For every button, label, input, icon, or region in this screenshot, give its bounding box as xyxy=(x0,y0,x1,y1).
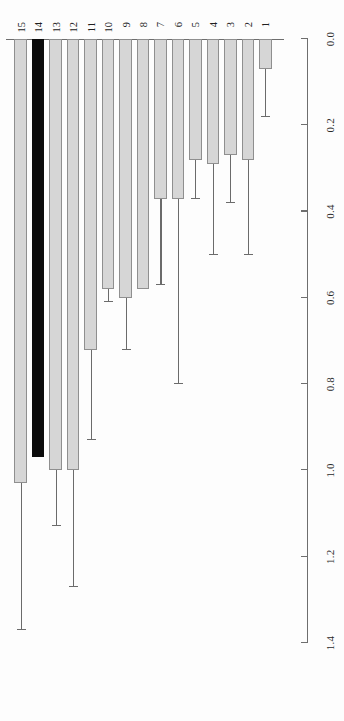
error-bar-5 xyxy=(195,160,196,199)
value-tick-label: 0.4 xyxy=(324,204,336,218)
bar-4 xyxy=(207,39,220,164)
bar-row xyxy=(14,39,27,643)
error-bar-3 xyxy=(230,155,231,202)
bar-row xyxy=(119,39,132,643)
category-label-6: 6 xyxy=(172,22,183,27)
bar-9 xyxy=(119,39,132,298)
bar-8 xyxy=(137,39,150,289)
error-bar-7 xyxy=(160,199,161,285)
error-bar-12 xyxy=(73,470,74,586)
category-label-2: 2 xyxy=(242,22,253,27)
bar-row xyxy=(189,39,202,643)
value-axis-line xyxy=(307,39,308,643)
rotated-figure-wrapper: 0.00.20.40.60.81.01.21.4 Relative uptake… xyxy=(0,0,344,721)
value-tick xyxy=(301,297,308,298)
category-label-14: 14 xyxy=(33,22,44,33)
bar-row xyxy=(49,39,62,643)
bar-10 xyxy=(102,39,115,289)
value-tick xyxy=(301,383,308,384)
bar-row xyxy=(32,39,45,643)
error-bar-15 xyxy=(21,483,22,630)
bar-2 xyxy=(242,39,255,160)
value-tick-label: 0.8 xyxy=(324,377,336,391)
figure-3: 0.00.20.40.60.81.01.21.4 Relative uptake… xyxy=(0,0,344,721)
error-bar-9 xyxy=(126,298,127,350)
bar-15 xyxy=(14,39,27,483)
bar-row xyxy=(67,39,80,643)
value-tick-label: 1.0 xyxy=(324,463,336,477)
value-tick xyxy=(301,124,308,125)
plot-area: 0.00.20.40.60.81.01.21.4 Relative uptake… xyxy=(12,39,274,643)
category-label-10: 10 xyxy=(103,22,114,33)
bar-5 xyxy=(189,39,202,160)
bar-7 xyxy=(154,39,167,199)
value-tick-label: 0.0 xyxy=(324,32,336,46)
error-bar-11 xyxy=(91,350,92,441)
bar-row xyxy=(242,39,255,643)
category-label-13: 13 xyxy=(50,22,61,33)
category-label-1: 1 xyxy=(260,22,271,27)
bar-13 xyxy=(49,39,62,470)
category-label-8: 8 xyxy=(138,22,149,27)
error-bar-1 xyxy=(265,69,266,116)
error-bar-2 xyxy=(248,160,249,255)
value-tick xyxy=(301,210,308,211)
value-tick xyxy=(301,556,308,557)
bar-row xyxy=(102,39,115,643)
bar-14 xyxy=(32,39,45,457)
error-bar-13 xyxy=(56,470,57,526)
value-tick-label: 0.6 xyxy=(324,291,336,305)
error-bar-4 xyxy=(213,164,214,255)
value-tick xyxy=(301,469,308,470)
figure-page: 0.00.20.40.60.81.01.21.4 Relative uptake… xyxy=(0,0,344,721)
category-label-5: 5 xyxy=(190,22,201,27)
value-tick xyxy=(301,38,308,39)
value-tick-label: 1.2 xyxy=(324,550,336,564)
error-bar-6 xyxy=(178,199,179,385)
bar-1 xyxy=(259,39,272,69)
bar-row xyxy=(224,39,237,643)
value-tick-label: 1.4 xyxy=(324,636,336,650)
bar-row xyxy=(259,39,272,643)
category-label-9: 9 xyxy=(120,22,131,27)
category-label-7: 7 xyxy=(155,22,166,27)
bar-11 xyxy=(84,39,97,350)
category-label-15: 15 xyxy=(15,22,26,33)
bar-6 xyxy=(172,39,185,199)
value-tick xyxy=(301,642,308,643)
bar-row xyxy=(154,39,167,643)
bar-12 xyxy=(67,39,80,470)
bar-row xyxy=(207,39,220,643)
bar-3 xyxy=(224,39,237,155)
category-label-11: 11 xyxy=(85,22,96,32)
category-label-12: 12 xyxy=(68,22,79,33)
error-bar-10 xyxy=(108,289,109,302)
category-label-3: 3 xyxy=(225,22,236,27)
bar-row xyxy=(84,39,97,643)
bar-row xyxy=(137,39,150,643)
bar-row xyxy=(172,39,185,643)
value-tick-label: 0.2 xyxy=(324,118,336,132)
category-label-4: 4 xyxy=(207,22,218,27)
